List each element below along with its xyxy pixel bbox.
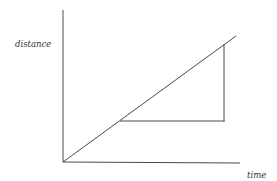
x-axis-label: time <box>247 170 266 180</box>
distance-time-graph: distance time <box>0 0 277 181</box>
y-axis-label: distance <box>15 39 51 49</box>
distance-time-line <box>63 36 236 162</box>
x-axis <box>63 162 240 163</box>
